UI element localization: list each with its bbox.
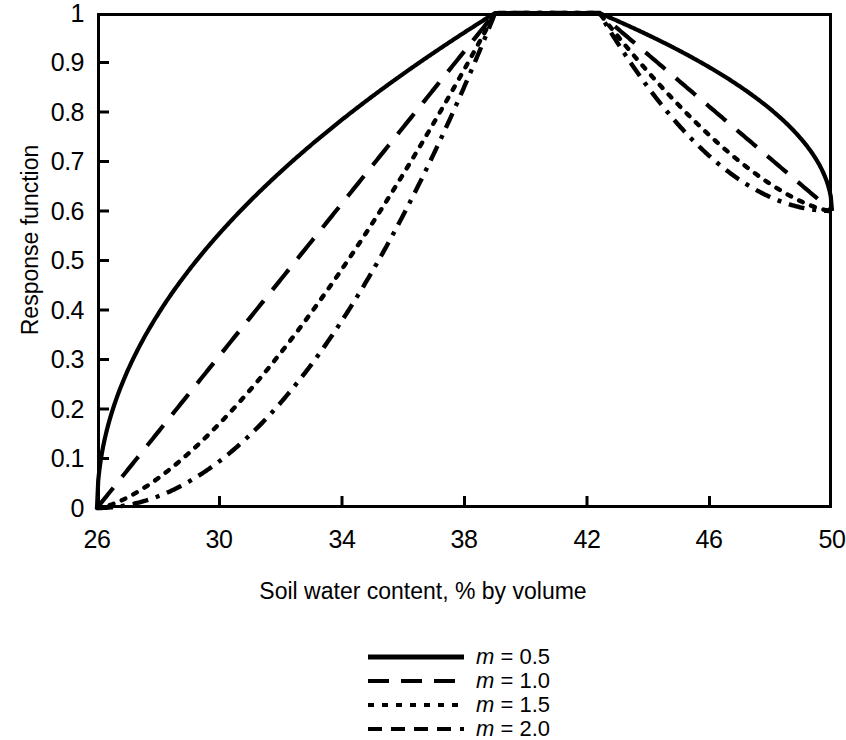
legend-swatch-dotted	[366, 695, 466, 715]
x-tick-30: 30	[184, 527, 254, 552]
y-tick-0_1: 0.1	[20, 446, 84, 471]
legend-swatch-long-dash	[366, 671, 466, 691]
y-tick-0_2: 0.2	[20, 397, 84, 422]
legend-label: m = 1.0	[466, 670, 550, 692]
legend: m = 0.5 m = 1.0 m = 1.5 m = 2.0	[366, 645, 596, 740]
legend-label: m = 2.0	[466, 718, 550, 740]
y-tick-label: 0.2	[26, 397, 84, 422]
legend-swatch-solid	[366, 647, 466, 667]
legend-item-m-1-5[interactable]: m = 1.5	[366, 693, 596, 717]
y-tick-label: 0.3	[26, 347, 84, 372]
legend-label: m = 1.5	[466, 694, 550, 716]
legend-label: m = 0.5	[466, 646, 550, 668]
x-axis-title: Soil water content, % by volume	[0, 578, 846, 604]
x-tick-46: 46	[674, 527, 744, 552]
y-tick-label: 0.1	[26, 446, 84, 471]
y-tick-label: 0	[26, 496, 84, 521]
y-tick-label: 0.9	[26, 50, 84, 75]
y-tick-0: 0	[20, 496, 84, 521]
chart-figure: 1 0.9 0.8 0.7 0.6 0.5 0.4 0.3 0.2 0.1 0 …	[0, 0, 846, 740]
legend-item-m-1-0[interactable]: m = 1.0	[366, 669, 596, 693]
y-tick-1: 1	[20, 1, 84, 26]
y-tick-0_8: 0.8	[20, 100, 84, 125]
x-tick-34: 34	[307, 527, 377, 552]
x-tick-38: 38	[429, 527, 499, 552]
legend-item-m-2-0[interactable]: m = 2.0	[366, 717, 596, 740]
y-tick-label: 0.8	[26, 100, 84, 125]
legend-swatch-dash-dot	[366, 719, 466, 739]
x-tick-42: 42	[552, 527, 622, 552]
x-tick-26: 26	[62, 527, 132, 552]
y-tick-label: 1	[26, 1, 84, 26]
y-tick-0_9: 0.9	[20, 50, 84, 75]
plot-area	[97, 13, 832, 508]
y-axis-title-holder: Response function	[0, 227, 200, 253]
legend-item-m-0-5[interactable]: m = 0.5	[366, 645, 596, 669]
y-axis-title: Response function	[17, 145, 43, 336]
y-tick-0_3: 0.3	[20, 347, 84, 372]
x-tick-50: 50	[797, 527, 846, 552]
